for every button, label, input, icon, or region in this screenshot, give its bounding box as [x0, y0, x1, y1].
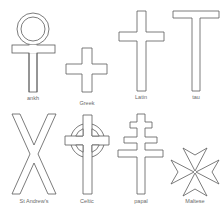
- celtic-label: Celtic: [80, 199, 94, 205]
- maltese-label: Maltese: [185, 199, 204, 205]
- tau-label: tau: [192, 95, 200, 101]
- crosses-diagram: [0, 0, 222, 211]
- ankh-icon: [12, 13, 55, 92]
- papal-cross-icon: [118, 114, 163, 194]
- celtic-cross-icon: [65, 115, 109, 194]
- latin-cross-icon: [119, 11, 164, 91]
- papal-label: papal: [134, 199, 147, 205]
- st-andrews-label: St Andrew's: [20, 199, 49, 205]
- maltese-cross-icon: [171, 148, 219, 196]
- greek-cross-icon: [66, 48, 107, 92]
- latin-label: Latin: [135, 95, 147, 101]
- greek-label: Greek: [80, 101, 95, 107]
- tau-cross-icon: [173, 11, 219, 91]
- ankh-label: ankh: [27, 96, 39, 102]
- st-andrews-cross-icon: [12, 114, 56, 194]
